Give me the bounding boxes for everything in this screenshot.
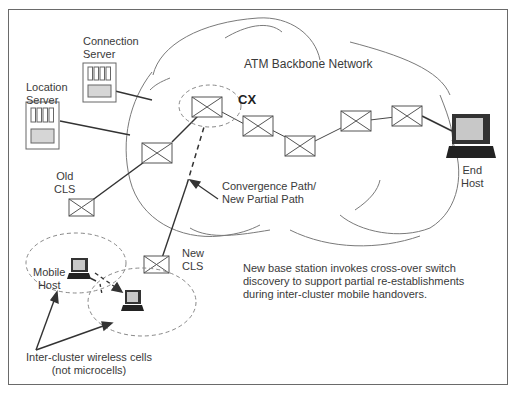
switch-icon bbox=[243, 116, 273, 136]
connection-server-icon bbox=[83, 63, 116, 102]
switch-icon bbox=[392, 106, 422, 126]
old-cls-label: Old CLS bbox=[54, 170, 75, 196]
switch-icon bbox=[142, 143, 172, 163]
atm-cloud bbox=[126, 18, 459, 246]
convergence-arrow bbox=[190, 180, 218, 199]
switch-icon bbox=[285, 136, 315, 156]
handover-arrow bbox=[95, 273, 122, 292]
location-server-icon bbox=[26, 102, 59, 149]
switch-icon-cx bbox=[192, 97, 222, 117]
convergence-path-label: Convergence Path/ New Partial Path bbox=[222, 180, 316, 206]
end-host-laptop-icon bbox=[446, 114, 496, 158]
connection-server-label: Connection Server bbox=[83, 35, 139, 61]
switch-icon bbox=[341, 111, 371, 131]
mobile-host-label: Mobile Host bbox=[33, 266, 65, 292]
location-server-label: Location Server bbox=[26, 81, 68, 107]
network-title: ATM Backbone Network bbox=[244, 58, 373, 71]
old-cls-switch-icon bbox=[69, 199, 94, 216]
new-cls-switch-icon bbox=[144, 256, 169, 273]
cells-arrows bbox=[36, 292, 112, 350]
mobile-host-new-laptop-icon bbox=[121, 290, 144, 311]
end-host-label: End Host bbox=[461, 164, 484, 190]
cells-label: Inter-cluster wireless cells (not microc… bbox=[26, 351, 152, 377]
new-cls-label: New CLS bbox=[182, 247, 204, 273]
crossover-label: CX bbox=[238, 93, 256, 106]
mobile-host-laptop-icon bbox=[67, 258, 91, 279]
caption: New base station invokes cross-over swit… bbox=[243, 262, 503, 301]
